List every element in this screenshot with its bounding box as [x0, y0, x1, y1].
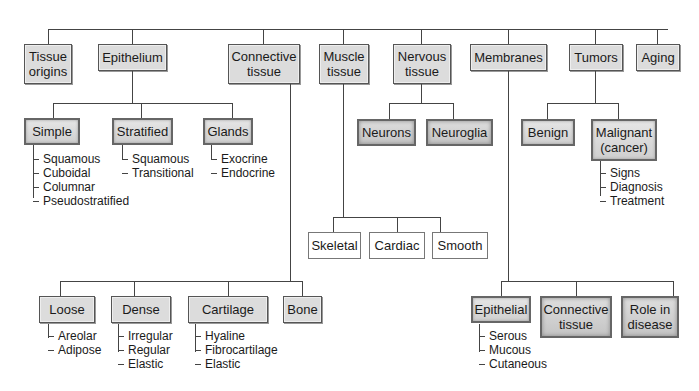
list-item: Columnar [43, 180, 95, 194]
list-item: Areolar [58, 329, 97, 343]
node-cardiac[interactable]: Cardiac [369, 232, 425, 259]
connector [132, 71, 133, 103]
node-skeletal[interactable]: Skeletal [308, 232, 361, 259]
connector [60, 281, 61, 296]
list-item: Endocrine [221, 166, 275, 180]
list-item: Regular [128, 343, 170, 357]
node-aging[interactable]: Aging [636, 44, 680, 71]
connector [333, 217, 440, 218]
connector [595, 71, 596, 103]
node-malignant[interactable]: Malignant (cancer) [591, 119, 657, 161]
connector [53, 103, 232, 104]
connector [343, 84, 344, 217]
node-membranes[interactable]: Membranes [470, 44, 547, 71]
connector [48, 29, 49, 44]
node-membrane-connective-tissue[interactable]: Connective tissue [540, 296, 612, 338]
node-epithelium[interactable]: Epithelium [98, 44, 167, 71]
node-role-in-disease[interactable]: Role in disease [621, 296, 679, 338]
list-item: Squamous [132, 152, 189, 166]
connector [508, 71, 509, 281]
connector [232, 103, 233, 118]
cartilage-list: Hyaline Fibrocartilage Elastic [195, 329, 278, 371]
list-item: Serous [489, 329, 527, 343]
epithelial-list: Serous Mucous Cutaneous [479, 329, 547, 371]
list-item: Squamous [43, 152, 100, 166]
connector [440, 217, 441, 232]
list-item: Pseudostratified [43, 194, 129, 208]
node-stratified[interactable]: Stratified [112, 118, 173, 145]
connector [501, 281, 502, 296]
node-nervous-tissue[interactable]: Nervous tissue [393, 44, 451, 84]
node-dense[interactable]: Dense [111, 296, 171, 323]
node-neurons[interactable]: Neurons [357, 119, 416, 146]
node-muscle-tissue[interactable]: Muscle tissue [319, 44, 369, 84]
list-item: Irregular [128, 329, 173, 343]
connector [308, 29, 668, 30]
connector [501, 281, 673, 282]
node-simple[interactable]: Simple [24, 118, 80, 145]
connector [421, 29, 422, 44]
connector [657, 29, 658, 44]
list-item: Mucous [489, 343, 531, 357]
connector [141, 103, 142, 118]
connector [134, 281, 135, 296]
list-item: Elastic [128, 357, 163, 371]
node-neuroglia[interactable]: Neuroglia [426, 119, 493, 146]
connector [389, 103, 453, 104]
connector [228, 281, 229, 296]
connector [508, 29, 509, 44]
node-loose[interactable]: Loose [39, 296, 95, 323]
dense-list: Irregular Regular Elastic [118, 329, 173, 371]
list-item: Transitional [132, 166, 194, 180]
list-item: Adipose [58, 343, 101, 357]
node-tissue-origins[interactable]: Tissue origins [24, 44, 72, 84]
connector [48, 29, 308, 30]
list-item: Treatment [610, 194, 664, 208]
list-item: Signs [610, 166, 640, 180]
connector [673, 281, 674, 296]
list-item: Fibrocartilage [205, 343, 278, 357]
connector [618, 103, 619, 120]
connector [263, 29, 264, 44]
node-connective-tissue[interactable]: Connective tissue [228, 44, 300, 84]
malignant-list: Signs Diagnosis Treatment [600, 166, 664, 208]
connector [60, 281, 302, 282]
list-item: Exocrine [221, 152, 268, 166]
connector [132, 29, 133, 44]
list-item: Diagnosis [610, 180, 663, 194]
connector [53, 103, 54, 118]
connector [453, 103, 454, 120]
node-bone[interactable]: Bone [283, 296, 322, 323]
node-glands[interactable]: Glands [203, 118, 253, 145]
connector [302, 281, 303, 296]
connector [576, 281, 577, 296]
glands-list: Exocrine Endocrine [211, 152, 275, 180]
connector [343, 29, 344, 44]
node-benign[interactable]: Benign [521, 119, 575, 146]
connector [547, 103, 618, 104]
list-item: Hyaline [205, 329, 245, 343]
node-smooth[interactable]: Smooth [432, 232, 488, 259]
node-epithelial[interactable]: Epithelial [471, 296, 531, 323]
list-item: Cuboidal [43, 166, 90, 180]
connector [389, 103, 390, 120]
node-cartilage[interactable]: Cartilage [188, 296, 268, 323]
connector [421, 84, 422, 103]
connector [547, 103, 548, 120]
simple-list: Squamous Cuboidal Columnar Pseudostratif… [33, 152, 129, 208]
stratified-list: Squamous Transitional [122, 152, 194, 180]
connector [333, 217, 334, 232]
connector [290, 84, 291, 281]
list-item: Cutaneous [489, 357, 547, 371]
node-tumors[interactable]: Tumors [569, 44, 623, 71]
loose-list: Areolar Adipose [48, 329, 101, 357]
connector [595, 29, 596, 44]
connector [397, 217, 398, 232]
list-item: Elastic [205, 357, 240, 371]
